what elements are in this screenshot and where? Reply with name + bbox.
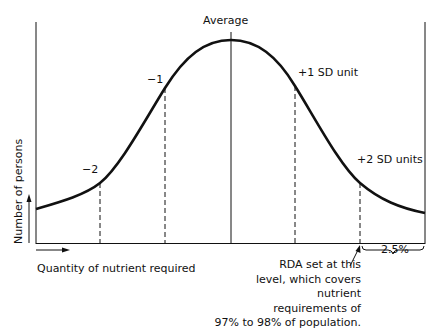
rda-annotation-line: 97% to 98% of population. <box>214 316 361 331</box>
y-axis-label: Number of persons <box>12 139 25 244</box>
average-label: Average <box>203 14 248 27</box>
sd-plus-2-label: +2 SD units <box>357 153 423 166</box>
rda-annotation-line: requirements of <box>214 302 361 317</box>
x-arrow-icon <box>36 248 70 253</box>
x-axis-label: Quantity of nutrient required <box>37 262 196 275</box>
rda-annotation-line: nutrient <box>214 287 361 302</box>
sd-minus-2-label: −2 <box>82 163 98 176</box>
tail-percent-label: 2.5% <box>381 243 409 256</box>
rda-annotation-line: level, which covers <box>214 273 361 288</box>
y-arrow-icon <box>27 194 32 243</box>
sd-plus-1-label: +1 SD unit <box>298 66 358 79</box>
rda-annotation: RDA set at this level, which covers nutr… <box>214 258 361 331</box>
sd-minus-1-label: −1 <box>147 73 163 86</box>
rda-annotation-line: RDA set at this <box>214 258 361 273</box>
